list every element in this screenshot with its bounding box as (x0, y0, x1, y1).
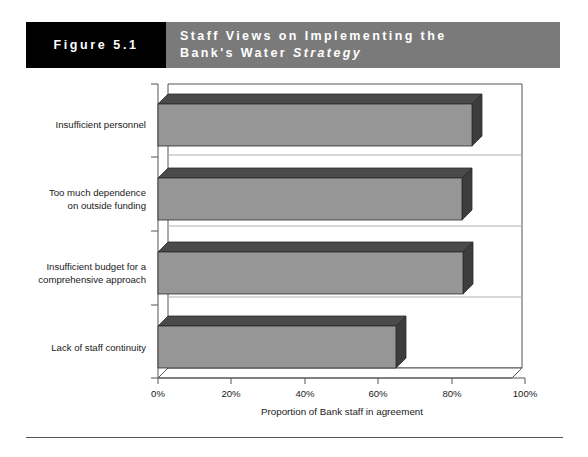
chart-area: 0% 20% 40% 60% 80% 100% Proportion of Ba… (0, 68, 588, 418)
xtick-5: 100% (513, 388, 538, 399)
bar-front-face (158, 104, 472, 146)
category-label-too-much-dependence-line2: on outside funding (68, 200, 146, 211)
bar-front-face (158, 252, 463, 294)
category-label-insufficient-personnel: Insufficient personnel (56, 119, 147, 130)
bar-insufficient-budget (158, 242, 473, 294)
xtick-1: 20% (221, 388, 241, 399)
category-axis-ticks (151, 84, 158, 378)
figure-number-block: Figure 5.1 (26, 22, 166, 68)
bar-top-face (158, 316, 406, 326)
xtick-3: 60% (368, 388, 388, 399)
bar-chart-3d: 0% 20% 40% 60% 80% 100% Proportion of Ba… (0, 68, 588, 418)
x-axis-title: Proportion of Bank staff in agreement (261, 406, 423, 417)
xtick-4: 80% (442, 388, 462, 399)
figure-title-line-2: Bank's Water Strategy (180, 45, 560, 62)
category-label-insufficient-budget-line2: comprehensive approach (38, 274, 146, 285)
figure-title-line-1: Staff Views on Implementing the (180, 28, 560, 45)
category-axis-labels: Insufficient personnel Too much dependen… (38, 119, 146, 353)
value-axis-tick-labels: 0% 20% 40% 60% 80% 100% (151, 388, 538, 399)
bar-top-face (158, 242, 473, 252)
bar-lack-of-staff-continuity (158, 316, 406, 368)
figure-header: Figure 5.1 Staff Views on Implementing t… (26, 22, 560, 68)
bar-top-face (158, 168, 472, 178)
xtick-2: 40% (295, 388, 315, 399)
bar-insufficient-personnel (158, 94, 482, 146)
bar-too-much-dependence (158, 168, 472, 220)
category-label-too-much-dependence-line1: Too much dependence (49, 187, 146, 198)
bar-front-face (158, 326, 396, 368)
plot-floor (158, 368, 522, 378)
bar-top-face (158, 94, 482, 104)
figure-title-line-2-italic: Strategy (293, 46, 362, 60)
figure-title-block: Staff Views on Implementing the Bank's W… (166, 22, 560, 68)
category-label-insufficient-budget-line1: Insufficient budget for a (46, 261, 146, 272)
figure-number-label: Figure 5.1 (53, 38, 138, 52)
xtick-0: 0% (151, 388, 165, 399)
figure-title-line-2-plain: Bank's Water (180, 46, 293, 60)
bar-front-face (158, 178, 462, 220)
value-axis (158, 378, 525, 384)
footer-rule (26, 437, 563, 438)
category-label-lack-of-staff-continuity: Lack of staff continuity (51, 342, 146, 353)
